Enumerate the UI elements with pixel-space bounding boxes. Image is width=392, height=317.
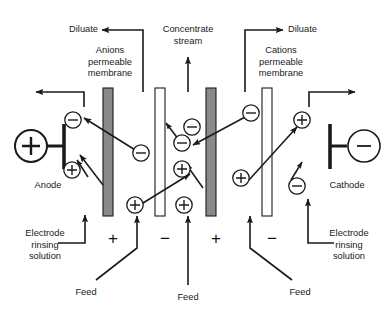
ion-anion	[65, 112, 81, 128]
label-electrode-rinsing-solution-right: Electrode rinsing solution	[329, 228, 368, 263]
label-anode: Anode	[35, 180, 62, 192]
ion-cation	[174, 161, 190, 177]
ion-anion	[174, 135, 190, 151]
ion-anion	[184, 119, 200, 135]
ion-cation	[176, 197, 192, 213]
label-concentrate-stream: Concentrate stream	[163, 24, 214, 47]
label-cations-permeable-membrane: Cations permeable membrane	[259, 45, 303, 80]
cation-arrow-chamber4-up	[249, 127, 297, 180]
compartment-sign-1: +	[108, 230, 118, 247]
anode-assembly	[15, 124, 64, 169]
diagram-canvas	[0, 0, 392, 317]
ion-anion	[289, 178, 305, 194]
membrane-anion-1	[103, 88, 113, 216]
membrane-anion-2	[206, 88, 216, 216]
label-diluate-right: Diluate	[288, 24, 317, 36]
right-rinse-outlet-arrow	[309, 92, 355, 107]
membrane-cation-1	[155, 88, 165, 216]
feed-inlet-left	[96, 216, 137, 280]
feed-inlet-right	[250, 216, 292, 280]
label-feed-left: Feed	[75, 287, 96, 299]
label-feed-center: Feed	[177, 292, 198, 304]
anode-plus-glyph	[22, 137, 40, 155]
feed-inlet-arrows	[58, 199, 334, 285]
left-rinse-outlet-arrow	[36, 92, 84, 107]
ion-cation	[233, 170, 249, 186]
label-anions-permeable-membrane: Anions permeable membrane	[88, 45, 132, 80]
ion-anion	[243, 105, 259, 121]
label-cathode: Cathode	[329, 180, 364, 192]
label-electrode-rinsing-solution-left: Electrode rinsing solution	[25, 228, 64, 263]
cathode-assembly	[330, 124, 380, 169]
membrane-cation-2	[262, 88, 272, 216]
ion-cation	[64, 162, 80, 178]
compartment-sign-2: −	[160, 230, 170, 247]
ion-anion	[133, 145, 149, 161]
electrodialysis-diagram: Diluate Diluate Concentrate stream Anion…	[0, 0, 392, 317]
label-feed-right: Feed	[289, 287, 310, 299]
anion-arrow-m3-to-m2	[193, 116, 247, 145]
compartment-sign-3: +	[211, 230, 221, 247]
compartment-sign-4: −	[267, 230, 277, 247]
ion-cation	[127, 197, 143, 213]
label-diluate-left: Diluate	[69, 24, 98, 36]
ion-symbols	[64, 105, 310, 213]
ion-cation	[294, 112, 310, 128]
